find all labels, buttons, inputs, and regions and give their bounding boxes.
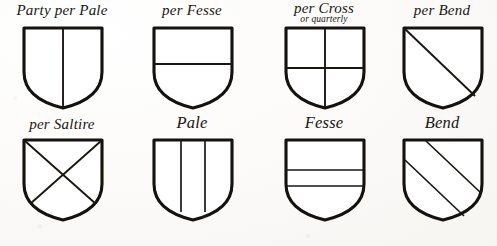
figure-label-main: per Fesse [132, 2, 252, 18]
shield-outline [154, 140, 232, 220]
figure-label-main: per Saltire [2, 116, 122, 132]
shield-outline [154, 28, 232, 108]
shield-per-cross [284, 26, 366, 110]
shield-pale [152, 138, 234, 222]
figure-label-main: Pale [132, 114, 252, 131]
figure-label: Party per Pale [0, 2, 124, 18]
shield-outline [24, 140, 102, 220]
figure-label-main: Party per Pale [2, 2, 122, 18]
figure-per-saltire[interactable]: per Saltire [0, 114, 124, 237]
figure-party-per-pale[interactable]: Party per Pale [0, 0, 124, 123]
shield-fesse [284, 138, 366, 222]
figure-pale[interactable]: Pale [130, 114, 254, 237]
shield-bend [402, 138, 484, 222]
figure-label: Bend [380, 114, 497, 131]
figure-fesse[interactable]: Fesse [262, 114, 386, 237]
figure-label-main: Fesse [264, 114, 384, 131]
figure-per-cross[interactable]: per Cross or quarterly [262, 0, 386, 123]
shield-outline [286, 140, 364, 220]
shield-per-saltire [22, 138, 104, 222]
shield-outline [404, 140, 482, 220]
figure-label-main: Bend [382, 114, 497, 131]
figure-label: per Fesse [130, 2, 254, 18]
figure-label-main: per Bend [382, 2, 497, 18]
shield-per-fesse [152, 26, 234, 110]
figure-label: per Cross or quarterly [262, 0, 386, 24]
figure-label: Pale [130, 114, 254, 131]
figure-label: per Saltire [0, 116, 124, 132]
figure-per-fesse[interactable]: per Fesse [130, 0, 254, 123]
figure-per-bend[interactable]: per Bend [380, 0, 497, 123]
shield-party-per-pale [22, 26, 104, 110]
figure-label-main: per Cross [264, 0, 384, 16]
figure-label: per Bend [380, 2, 497, 18]
figure-label: Fesse [262, 114, 386, 131]
heraldry-plate: Party per Pale per Fesse per Cross or qu… [0, 0, 497, 246]
shield-per-bend [402, 26, 484, 110]
figure-bend[interactable]: Bend [380, 114, 497, 237]
